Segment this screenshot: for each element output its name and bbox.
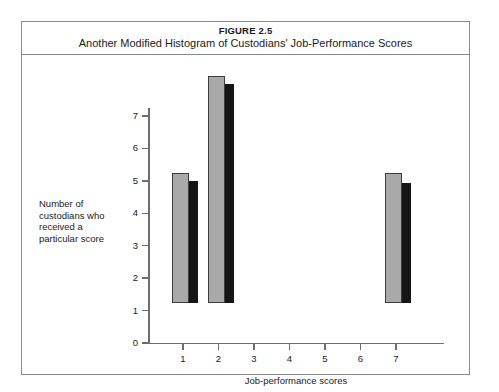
y-axis-tick	[142, 245, 149, 247]
y-axis-tick-label: 2	[122, 273, 138, 283]
y-axis-tick-label: 5	[122, 176, 138, 186]
x-axis-tick	[253, 344, 254, 350]
x-axis-tick	[324, 344, 325, 350]
x-axis-tick	[360, 344, 361, 350]
x-axis-tick-label: 2	[207, 354, 231, 364]
y-axis-tick-label: 4	[122, 208, 138, 218]
x-axis-tick	[395, 344, 396, 350]
y-axis-tick	[142, 180, 149, 182]
x-axis-tick	[218, 344, 219, 350]
x-axis-tick-label: 5	[313, 354, 337, 364]
y-axis-tick-label: 7	[122, 111, 138, 121]
x-axis-line	[148, 343, 444, 345]
y-axis-tick	[142, 213, 149, 215]
y-axis-tick	[142, 310, 149, 312]
figure-frame: FIGURE 2.5 Another Modified Histogram of…	[21, 21, 470, 375]
y-axis-tick	[142, 277, 149, 279]
y-axis-tick-label: 3	[122, 241, 138, 251]
x-axis-tick-label: 4	[278, 354, 302, 364]
y-axis-tick	[142, 115, 149, 117]
y-axis-tick-label: 1	[122, 306, 138, 316]
bar-7	[385, 173, 412, 303]
figure-number: FIGURE 2.5	[22, 25, 469, 36]
y-axis-tick-label: 6	[122, 143, 138, 153]
x-axis-tick-label: 3	[242, 354, 266, 364]
x-axis-tick-label: 1	[171, 354, 195, 364]
bar-1	[172, 173, 199, 303]
y-axis-tick-label: 0	[122, 338, 138, 348]
y-axis-line	[148, 108, 150, 344]
figure-title-block: FIGURE 2.5 Another Modified Histogram of…	[22, 22, 469, 55]
y-axis-tick	[142, 342, 149, 344]
chart-plot-area: 01234567 1234567 Number of custodians wh…	[22, 55, 469, 374]
y-axis-label: Number of custodians who received a part…	[39, 198, 123, 244]
x-axis-tick-label: 7	[384, 354, 408, 364]
bar-face	[208, 76, 225, 303]
bar-face	[385, 173, 402, 303]
bar-2	[208, 76, 235, 303]
bar-face	[172, 173, 189, 303]
page-title: Another Modified Histogram of Custodians…	[22, 37, 469, 50]
y-axis-tick	[142, 148, 149, 150]
x-axis-label: Job-performance scores	[148, 375, 444, 386]
x-axis-tick	[182, 344, 183, 350]
x-axis-tick	[289, 344, 290, 350]
x-axis-tick-label: 6	[349, 354, 373, 364]
